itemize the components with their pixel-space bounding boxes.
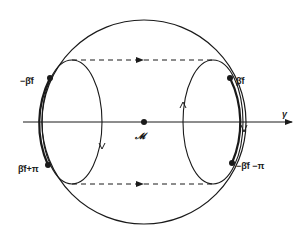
label-neg-beta-f: −β̂f (20, 76, 35, 86)
label-center-m: 𝓜 (134, 131, 148, 141)
label-beta-f: β̂f (236, 76, 245, 86)
point-beta-f (227, 75, 233, 81)
right-ellipse-arrow (180, 102, 186, 108)
point-beta-f-plus-pi (45, 162, 51, 168)
phase-diagram: γ −β̂f β̂f β̂f+π −β̂f −π 𝓜 (0, 0, 308, 235)
top-dashed-arrow (136, 57, 144, 63)
bottom-dashed-arrow (136, 181, 144, 187)
point-center-m (141, 119, 147, 125)
label-neg-beta-f-minus-pi: −β̂f −π (236, 161, 265, 171)
axis-label-gamma: γ (282, 109, 288, 119)
point-neg-beta-f (47, 75, 53, 81)
label-beta-f-plus-pi: β̂f+π (18, 164, 39, 174)
point-neg-beta-f-minus-pi (229, 160, 235, 166)
